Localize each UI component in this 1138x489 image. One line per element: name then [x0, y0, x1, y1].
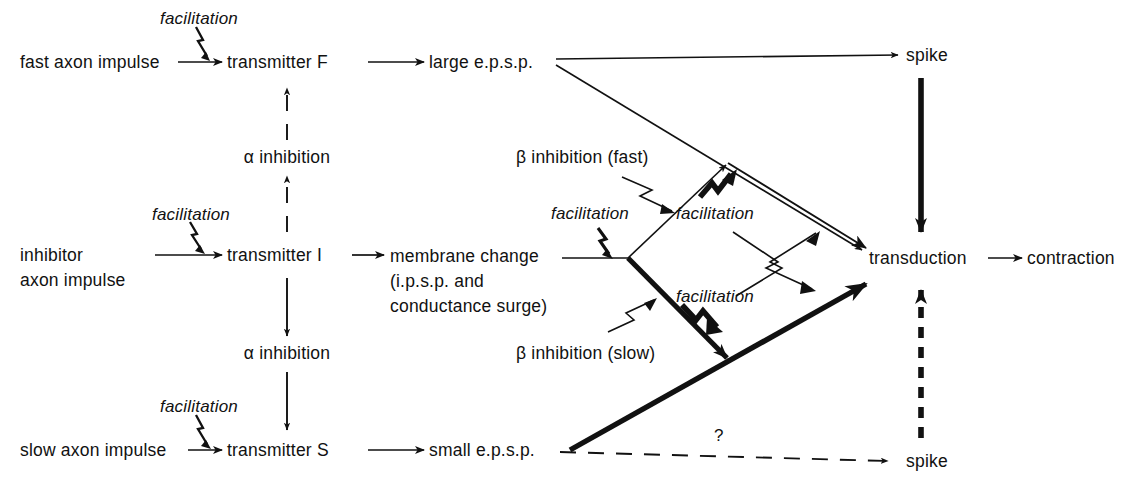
label-alpha-inhibition-upper: α inhibition: [244, 146, 330, 168]
diagram-canvas: facilitation fast axon impulse transmitt…: [0, 0, 1138, 489]
node-transmitter-f: transmitter F: [227, 51, 328, 73]
node-contraction: contraction: [1027, 247, 1115, 269]
node-membrane-change-line2: (i.p.s.p. and: [390, 271, 484, 291]
label-facilitation-beta-membrane: facilitation: [551, 203, 629, 225]
node-fast-axon-impulse: fast axon impulse: [20, 51, 160, 73]
node-transmitter-i: transmitter I: [227, 244, 322, 266]
node-transduction: transduction: [869, 247, 967, 269]
node-inhibitor-axon-line1: inhibitor: [20, 245, 83, 265]
node-slow-axon-impulse: slow axon impulse: [20, 439, 166, 461]
label-facilitation-slow: facilitation: [160, 396, 238, 418]
node-large-epsp: large e.p.s.p.: [429, 51, 533, 73]
edge-large-epsp-to-spike-top: [556, 55, 898, 59]
label-facilitation-inhibitor: facilitation: [152, 204, 230, 226]
node-membrane-change-line3: conductance surge): [390, 296, 547, 316]
lightning-facilitation-inhibitor: [190, 222, 205, 254]
lightning-beta-inhibition-fast: [622, 177, 675, 214]
lightning-facilitation-fast: [196, 27, 210, 61]
node-spike-bottom: spike: [906, 450, 948, 472]
label-beta-inhibition-slow: β inhibition (slow): [516, 342, 655, 364]
label-facilitation-upper-cross: facilitation: [676, 203, 754, 225]
node-small-epsp: small e.p.s.p.: [429, 439, 535, 461]
label-unknown-marker: ?: [714, 425, 724, 447]
node-inhibitor-axon-impulse: inhibitor axon impulse: [20, 243, 150, 293]
node-inhibitor-axon-line2: axon impulse: [20, 270, 126, 290]
label-beta-inhibition-fast: β inhibition (fast): [516, 146, 649, 168]
edge-small-epsp-to-spike-bottom: [560, 452, 888, 461]
node-transmitter-s: transmitter S: [227, 439, 329, 461]
label-alpha-inhibition-lower: α inhibition: [244, 342, 330, 364]
lightning-facilitation-slow: [196, 415, 211, 449]
node-membrane-change-line1: membrane change: [390, 246, 539, 266]
label-facilitation-fast: facilitation: [160, 8, 238, 30]
label-facilitation-lower-cross: facilitation: [676, 286, 754, 308]
lightning-beta-inhibition-slow: [608, 298, 657, 332]
lightning-facilitation-membrane: [598, 228, 613, 259]
node-spike-top: spike: [906, 44, 948, 66]
node-membrane-change: membrane change (i.p.s.p. and conductanc…: [390, 244, 590, 319]
